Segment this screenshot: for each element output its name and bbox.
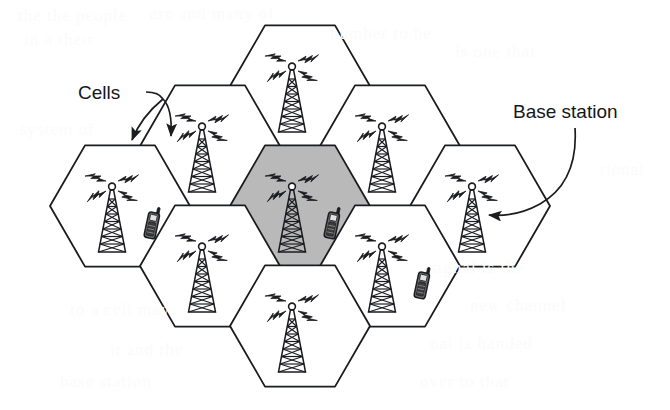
cellular-network-figure: the the peopleare and many ofin a theirn… <box>0 0 670 410</box>
base-station-label: Base station <box>513 101 618 122</box>
cells-label: Cells <box>78 82 120 103</box>
cellular-diagram-svg: Cells Base station <box>0 0 670 410</box>
cells-leader-line <box>146 92 163 99</box>
